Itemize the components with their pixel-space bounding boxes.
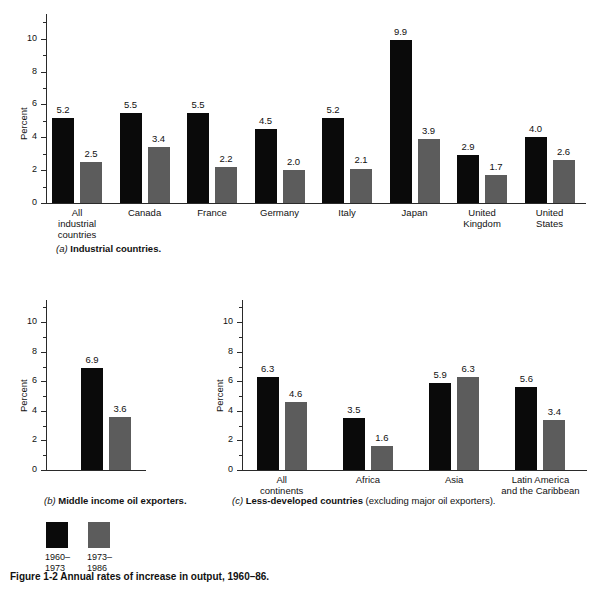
- bar-c-0-1: [285, 402, 307, 470]
- bar-a-4-0: [322, 118, 344, 203]
- y-tick-label: 0: [208, 465, 233, 474]
- panel-b-plot-area: 02468106.93.6: [46, 300, 146, 470]
- panel-middle-income-oil-exporters: Percent 02468106.93.6 (b) Middle income …: [0, 290, 200, 520]
- bar-a-4-1: [350, 169, 372, 204]
- panel-a-caption: (a) Industrial countries.: [56, 243, 161, 254]
- bar-value-label: 5.2: [46, 105, 80, 115]
- y-tick-major: [41, 440, 46, 441]
- bar-c-3-0: [515, 387, 537, 470]
- y-tick-major: [41, 72, 46, 73]
- panel-less-developed-countries: Percent 02468106.34.6All continents3.51.…: [196, 290, 608, 520]
- y-tick-major: [41, 322, 46, 323]
- bar-value-label: 2.2: [209, 154, 243, 164]
- panel-b-title: Middle income oil exporters.: [58, 495, 186, 506]
- bar-b-0-0: [81, 368, 103, 470]
- bar-c-1-0: [343, 418, 365, 470]
- bar-a-5-1: [418, 139, 440, 203]
- bar-a-3-0: [255, 129, 277, 203]
- bar-value-label: 4.0: [519, 124, 553, 134]
- chart-legend: 1960– 1973 1973– 1986: [46, 522, 206, 568]
- panel-c-title: Less-developed countries: [246, 495, 363, 506]
- bar-value-label: 3.4: [142, 134, 176, 144]
- y-tick-minor: [43, 88, 46, 89]
- panel-a-plot-area: 02468105.22.5All industrial countries5.5…: [46, 14, 586, 203]
- y-tick-label: 6: [12, 99, 37, 108]
- y-tick-minor: [239, 426, 242, 427]
- panel-c-y-axis: [242, 300, 243, 470]
- y-tick-minor: [43, 22, 46, 23]
- y-tick-label: 2: [12, 435, 37, 444]
- y-tick-major: [237, 322, 242, 323]
- panel-c-caption: (c) Less-developed countries (excluding …: [232, 495, 495, 506]
- bar-value-label: 3.5: [337, 405, 371, 415]
- y-tick-minor: [43, 307, 46, 308]
- y-tick-label: 4: [12, 406, 37, 415]
- y-tick-minor: [43, 367, 46, 368]
- y-tick-major: [41, 381, 46, 382]
- bar-a-1-1: [148, 147, 170, 203]
- bar-value-label: 2.6: [547, 147, 581, 157]
- y-tick-minor: [239, 455, 242, 456]
- y-tick-minor: [239, 337, 242, 338]
- bar-value-label: 5.5: [181, 100, 215, 110]
- panel-b-x-axis: [46, 470, 146, 471]
- bar-value-label: 2.0: [277, 157, 311, 167]
- bar-c-1-1: [371, 446, 393, 470]
- bar-value-label: 3.6: [103, 404, 137, 414]
- bar-value-label: 2.5: [74, 149, 108, 159]
- y-tick-label: 8: [12, 67, 37, 76]
- y-tick-label: 4: [12, 132, 37, 141]
- panel-a-x-axis: [46, 203, 586, 204]
- panel-c-note: (excluding major oil exporters).: [363, 495, 496, 506]
- y-tick-major: [41, 411, 46, 412]
- bar-value-label: 4.6: [279, 389, 313, 399]
- panel-industrial-countries: Percent 02468105.22.5All industrial coun…: [0, 0, 608, 270]
- legend-label-1960-1973: 1960– 1973: [45, 552, 70, 573]
- y-tick-major: [237, 470, 242, 471]
- y-tick-label: 2: [208, 435, 233, 444]
- bar-c-2-1: [457, 377, 479, 470]
- panel-c-x-axis: [242, 470, 587, 471]
- y-tick-major: [41, 39, 46, 40]
- y-tick-major: [41, 470, 46, 471]
- y-tick-major: [237, 411, 242, 412]
- y-tick-minor: [239, 367, 242, 368]
- y-tick-label: 0: [12, 465, 37, 474]
- y-tick-minor: [43, 154, 46, 155]
- bar-value-label: 6.3: [451, 364, 485, 374]
- bar-a-0-0: [52, 118, 74, 203]
- bar-a-0-1: [80, 162, 102, 203]
- y-tick-minor: [43, 337, 46, 338]
- panel-b-caption: (b) Middle income oil exporters.: [44, 495, 187, 506]
- y-tick-minor: [43, 455, 46, 456]
- legend-swatch-1973-1986: [88, 522, 110, 548]
- y-tick-minor: [239, 307, 242, 308]
- panel-b-tag: (b): [44, 495, 56, 506]
- bar-c-0-0: [257, 377, 279, 470]
- y-tick-label: 6: [208, 376, 233, 385]
- y-tick-minor: [239, 396, 242, 397]
- bar-value-label: 6.3: [251, 364, 285, 374]
- bar-a-7-0: [525, 137, 547, 203]
- bar-a-3-1: [283, 170, 305, 203]
- panel-a-title: Industrial countries.: [70, 243, 161, 254]
- y-tick-label: 10: [12, 317, 37, 326]
- y-tick-major: [41, 352, 46, 353]
- bar-a-2-0: [187, 113, 209, 203]
- bar-value-label: 1.6: [365, 433, 399, 443]
- panel-c-plot-area: 02468106.34.6All continents3.51.6Africa5…: [242, 300, 587, 470]
- y-tick-label: 8: [208, 347, 233, 356]
- panel-c-tag: (c): [232, 495, 243, 506]
- bar-c-2-0: [429, 383, 451, 470]
- y-tick-major: [41, 137, 46, 138]
- bar-c-3-1: [543, 420, 565, 470]
- y-tick-label: 0: [12, 198, 37, 207]
- bar-value-label: 4.5: [249, 116, 283, 126]
- bar-value-label: 5.5: [114, 100, 148, 110]
- y-tick-major: [41, 170, 46, 171]
- panel-b-y-axis: [46, 300, 47, 470]
- bar-value-label: 5.6: [509, 374, 543, 384]
- bar-value-label: 5.2: [316, 105, 350, 115]
- bar-value-label: 3.4: [537, 407, 571, 417]
- x-category-label: Latin America and the Caribbean: [485, 474, 595, 496]
